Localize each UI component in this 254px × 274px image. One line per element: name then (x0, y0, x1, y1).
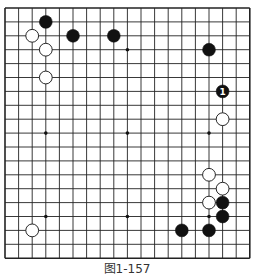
star-point (44, 215, 48, 219)
black-stone (203, 43, 216, 56)
star-point (126, 131, 130, 135)
black-stone (216, 196, 229, 209)
white-stone (216, 113, 229, 126)
black-stone (67, 29, 80, 42)
star-point (126, 48, 130, 52)
move-number-label: 1 (219, 87, 225, 97)
black-stone (203, 224, 216, 237)
go-board: 1 (0, 0, 254, 262)
figure-caption: 图1-157 (0, 262, 254, 274)
black-stone (39, 16, 52, 29)
white-stone (39, 71, 52, 84)
white-stone (26, 29, 39, 42)
star-point (44, 131, 48, 135)
black-stone (175, 224, 188, 237)
star-point (126, 215, 130, 219)
white-stone (203, 168, 216, 181)
white-stone (203, 196, 216, 209)
white-stone (216, 182, 229, 195)
star-point (207, 131, 211, 135)
star-point (207, 215, 211, 219)
black-stone (107, 29, 120, 42)
white-stone (26, 224, 39, 237)
white-stone (39, 43, 52, 56)
black-stone (216, 210, 229, 223)
